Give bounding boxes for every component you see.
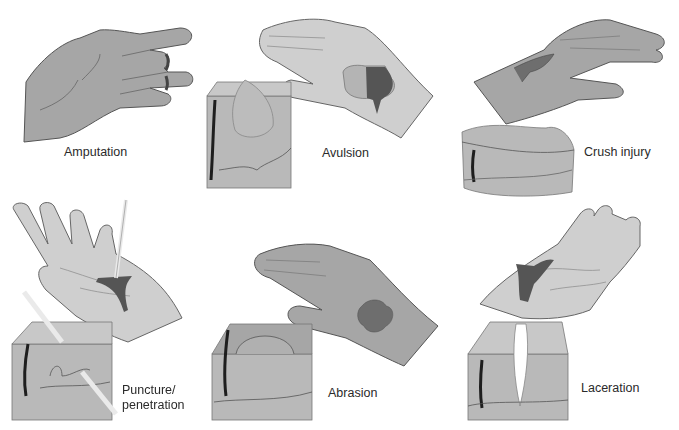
- panel-puncture: Puncture/ penetration: [0, 200, 230, 430]
- label-amputation: Amputation: [64, 145, 127, 160]
- label-crush-injury: Crush injury: [584, 145, 651, 160]
- panel-crush: Crush injury: [460, 0, 679, 210]
- label-puncture-line1: Puncture/: [122, 383, 176, 398]
- hand-laceration-icon: [450, 200, 679, 430]
- label-laceration: Laceration: [581, 381, 639, 396]
- hand-skin-flap-icon: [205, 0, 460, 200]
- panel-avulsion: Avulsion: [205, 0, 460, 200]
- panel-amputation: Amputation: [0, 0, 230, 200]
- hand-amputated-finger-icon: [0, 0, 230, 200]
- panel-laceration: Laceration: [450, 200, 679, 430]
- label-avulsion: Avulsion: [322, 146, 369, 161]
- label-puncture-line2: penetration: [122, 398, 185, 413]
- panel-abrasion: Abrasion: [200, 230, 470, 430]
- hand-puncture-icon: [0, 200, 230, 430]
- hand-crushed-tissue-icon: [460, 0, 679, 210]
- label-abrasion: Abrasion: [328, 386, 377, 401]
